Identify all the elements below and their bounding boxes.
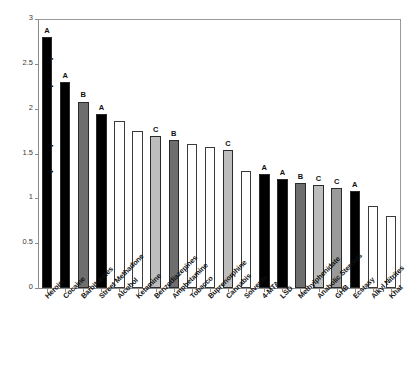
bar-annotation-lsd: A bbox=[277, 168, 288, 177]
y-tick-label: 2 bbox=[29, 103, 33, 112]
y-tick-label: 0 bbox=[29, 282, 33, 291]
y-tick-1.5: 1.5 bbox=[0, 154, 38, 155]
bar-group: A bbox=[259, 19, 270, 288]
bar-group: A bbox=[96, 19, 107, 288]
bar-annotation-ecstasy: A bbox=[350, 180, 361, 189]
bar-ecstasy bbox=[350, 191, 361, 288]
bar-group: A bbox=[42, 19, 53, 288]
y-tick-label: 3 bbox=[29, 13, 33, 22]
bar-4-mta bbox=[259, 174, 270, 288]
bar-group: C bbox=[223, 19, 234, 288]
bar-benzodiazepines bbox=[150, 136, 161, 288]
bar-heroin bbox=[42, 37, 53, 288]
y-tick-0: 0 bbox=[0, 288, 38, 289]
bar-group bbox=[241, 19, 252, 288]
bar-group: B bbox=[295, 19, 306, 288]
bar-annotation-ghb: C bbox=[331, 177, 342, 186]
bar-group: A bbox=[60, 19, 71, 288]
bar-group bbox=[205, 19, 216, 288]
bar-group bbox=[386, 19, 397, 288]
bar-annotation-benzodiazepines: C bbox=[150, 125, 161, 134]
y-tick-3: 3 bbox=[0, 19, 38, 20]
y-tick-1: 1 bbox=[0, 198, 38, 199]
y-tick-mark bbox=[35, 288, 38, 289]
bar-group bbox=[114, 19, 125, 288]
bar-lsd bbox=[277, 179, 288, 288]
y-tick-0.5: 0.5 bbox=[0, 243, 38, 244]
bar-annotation-street-methadone: A bbox=[96, 103, 107, 112]
bar-annotation-cannabis: C bbox=[223, 139, 234, 148]
bar-annotation-cocaine: A bbox=[60, 71, 71, 80]
bar-annotation-barbiturates: B bbox=[78, 90, 89, 99]
bar-cocaine bbox=[60, 82, 71, 288]
bar-group: A bbox=[277, 19, 288, 288]
y-tick-label: 1.5 bbox=[23, 148, 33, 157]
bar-annotation-heroin: A bbox=[42, 26, 53, 35]
y-tick-2: 2 bbox=[0, 109, 38, 110]
y-tick-label: 1 bbox=[29, 192, 33, 201]
bar-annotation-amphetamine: B bbox=[169, 129, 180, 138]
plot-area: AABACBCAABCCA bbox=[38, 19, 400, 288]
bar-group: C bbox=[313, 19, 324, 288]
bar-group bbox=[187, 19, 198, 288]
bar-group bbox=[368, 19, 379, 288]
bar-annotation-4-mta: A bbox=[259, 163, 270, 172]
bar-group: B bbox=[169, 19, 180, 288]
bar-annotation-anabolic-steroids: C bbox=[313, 174, 324, 183]
plot-border-right bbox=[400, 19, 401, 289]
y-tick-label: 2.5 bbox=[23, 58, 33, 67]
bar-alcohol bbox=[114, 121, 125, 288]
bar-chart: Mean score (independent experts) 00.511.… bbox=[0, 0, 413, 379]
bar-group: A bbox=[350, 19, 361, 288]
bar-group: C bbox=[331, 19, 342, 288]
y-tick-label: 0.5 bbox=[23, 237, 33, 246]
bar-group: C bbox=[150, 19, 161, 288]
bar-annotation-methylphenidate: B bbox=[295, 172, 306, 181]
bar-amphetamine bbox=[169, 140, 180, 288]
bar-group: B bbox=[78, 19, 89, 288]
bar-group bbox=[132, 19, 143, 288]
bar-methylphenidate bbox=[295, 183, 306, 288]
y-tick-2.5: 2.5 bbox=[0, 64, 38, 65]
bar-barbiturates bbox=[78, 102, 89, 289]
bar-street-methadone bbox=[96, 114, 107, 288]
